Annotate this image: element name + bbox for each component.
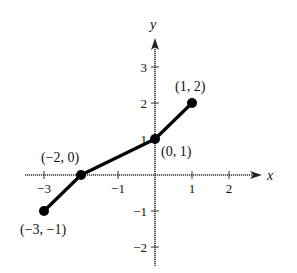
y-axis-arrow-icon (151, 38, 159, 50)
x-tick-label: −3 (37, 181, 51, 196)
y-tick-label: −2 (133, 240, 147, 255)
point-label: (−3, −1) (20, 222, 66, 238)
data-point-marker (76, 170, 86, 180)
point-label: (−2, 0) (41, 150, 80, 166)
y-tick-label: 2 (141, 96, 148, 111)
x-tick-label: 1 (189, 181, 196, 196)
x-axis-label: x (266, 168, 274, 183)
y-tick-label: −1 (133, 204, 147, 219)
point-label: (1, 2) (175, 79, 206, 95)
x-tick-label: 2 (226, 181, 233, 196)
x-tick-label: −1 (111, 181, 125, 196)
y-axis-label: y (148, 17, 157, 32)
y-tick-label: 3 (141, 60, 148, 75)
chart: −3−112−2−1123 (−3, −1)(−2, 0)(0, 1)(1, 2… (0, 0, 297, 273)
point-label: (0, 1) (161, 144, 192, 160)
data-point-marker (187, 98, 197, 108)
data-point-marker (150, 134, 160, 144)
data-point-marker (39, 206, 49, 216)
